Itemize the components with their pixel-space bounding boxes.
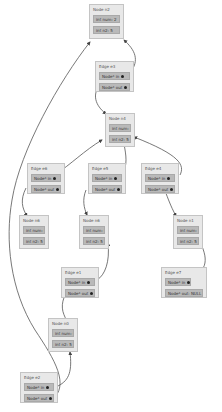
node-title: Node n4 (109, 116, 131, 122)
edge-title: Edge e1 (65, 270, 95, 276)
field-in: Node* in (99, 72, 130, 80)
edge-e1[interactable]: Edge e2 Node* in Node* out (20, 372, 58, 403)
field-num: int num: 6 (83, 226, 105, 234)
field-in: Node* in (65, 278, 95, 286)
node-title: Node n1 (177, 218, 199, 224)
pointer-dot-icon (187, 281, 190, 284)
field-n2: int n2: 5 (177, 237, 199, 245)
field-n2: int n2: 5 (109, 135, 131, 143)
edge-title: Edge e7 (165, 270, 203, 276)
field-out: Node* out (145, 185, 175, 193)
field-out: Node* out: NULL (165, 289, 203, 297)
node-n1[interactable]: Node n1 int num: 1 int n2: 5 (173, 215, 203, 249)
field-num: int num: 0 (52, 329, 74, 337)
edge-e6[interactable]: Edge e6 Node* in Node* out (27, 163, 65, 194)
field-in: Node* in (24, 383, 54, 391)
pointer-dot-icon (53, 177, 56, 180)
field-out: Node* out (31, 185, 61, 193)
pointer-dot-icon (167, 177, 170, 180)
field-n2: int n2: 5 (93, 26, 120, 34)
pointer-dot-icon (170, 188, 173, 191)
node-n2[interactable]: Node n2 int num: 2 int n2: 5 (89, 4, 124, 39)
node-title: Node n6 (23, 218, 45, 224)
field-num: int num: 1 (177, 226, 199, 234)
field-out: Node* out (24, 394, 54, 402)
pointer-dot-icon (56, 188, 59, 191)
pointer-dot-icon (87, 281, 90, 284)
node-n4[interactable]: Node n4 int num: 4 int n2: 5 (105, 113, 135, 147)
node-title: Node n2 (93, 7, 120, 13)
node-n0[interactable]: Node n0 int num: 0 int n2: 5 (48, 318, 78, 352)
field-num: int num: 6 (23, 226, 45, 234)
field-n2: int n2: 5 (52, 340, 74, 348)
edge-e3[interactable]: Edge e3 Node* in Node* out (95, 61, 134, 92)
edge-e4[interactable]: Edge e4 Node* in Node* out (141, 163, 179, 194)
edge-title: Edge e5 (92, 166, 122, 172)
field-out: Node* out (65, 289, 95, 297)
field-in: Node* in (31, 174, 61, 182)
field-num: int num: 2 (93, 15, 120, 23)
edge-title: Edge e6 (31, 166, 61, 172)
field-in: Node* in (165, 278, 191, 286)
field-out: Node* out (92, 185, 122, 193)
node-title: Node n6 (83, 218, 105, 224)
field-out: Node* out (99, 83, 130, 91)
pointer-dot-icon (90, 292, 93, 295)
edge-title: Edge e4 (145, 166, 175, 172)
node-n8[interactable]: Node n6 int num: 6 int n2: 5 (19, 215, 49, 249)
field-in: Node* in (145, 174, 175, 182)
field-num: int num: 4 (109, 124, 131, 132)
field-in: Node* in (92, 174, 122, 182)
pointer-dot-icon (124, 86, 127, 89)
pointer-dot-icon (114, 177, 117, 180)
field-n2: int n2: 5 (23, 237, 45, 245)
edge-title: Edge e3 (99, 64, 130, 70)
edge-e5[interactable]: Edge e5 Node* in Node* out (88, 163, 126, 194)
pointer-dot-icon (121, 75, 124, 78)
edge-e7[interactable]: Edge e7 Node* in Node* out: NULL (161, 267, 207, 298)
node-title: Node n0 (52, 321, 74, 327)
pointer-dot-icon (117, 188, 120, 191)
node-n6[interactable]: Node n6 int num: 6 int n2: 5 (79, 215, 109, 249)
edge-e8[interactable]: Edge e1 Node* in Node* out (61, 267, 99, 298)
edge-title: Edge e2 (24, 375, 54, 381)
pointer-dot-icon (49, 397, 52, 400)
field-n2: int n2: 5 (83, 237, 105, 245)
pointer-dot-icon (46, 386, 49, 389)
